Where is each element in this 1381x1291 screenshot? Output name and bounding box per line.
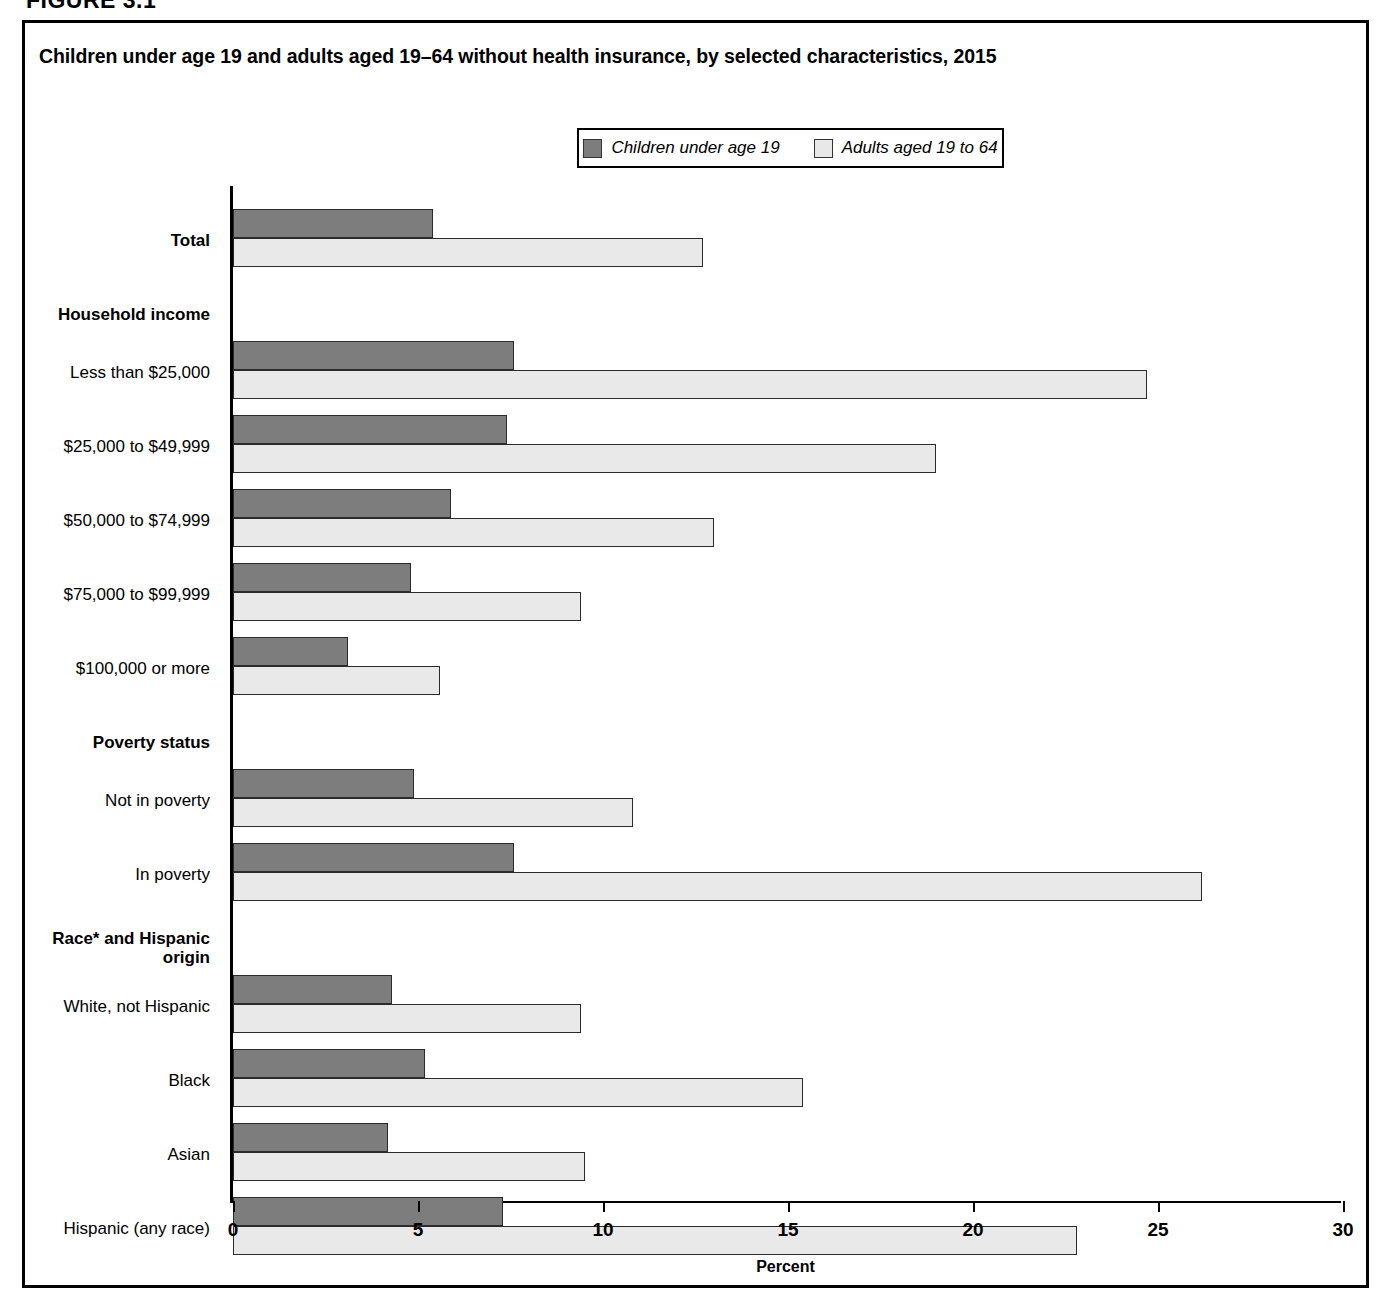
bar-children xyxy=(233,341,514,370)
row-label: Household income xyxy=(20,305,210,324)
x-tick-mark xyxy=(788,1201,790,1212)
bar-adults xyxy=(233,1078,803,1107)
bar-children xyxy=(233,769,414,798)
row-label: Hispanic (any race) xyxy=(20,1219,210,1238)
row-label: Not in poverty xyxy=(20,791,210,810)
bar-adults xyxy=(233,1226,1077,1255)
bar-children xyxy=(233,209,433,238)
row-label: Total xyxy=(20,231,210,250)
x-tick-mark xyxy=(603,1201,605,1212)
x-tick-label: 5 xyxy=(413,1219,424,1241)
bar-children xyxy=(233,637,348,666)
x-tick-label: 25 xyxy=(1147,1219,1168,1241)
bar-children xyxy=(233,843,514,872)
x-tick-label: 15 xyxy=(777,1219,798,1241)
bar-adults xyxy=(233,666,440,695)
bar-children xyxy=(233,1049,425,1078)
x-tick-mark xyxy=(1343,1201,1345,1212)
bar-children xyxy=(233,563,411,592)
bar-children xyxy=(233,1197,503,1226)
x-tick-label: 0 xyxy=(228,1219,239,1241)
bar-adults xyxy=(233,872,1202,901)
row-label: Asian xyxy=(20,1145,210,1164)
x-tick-label: 10 xyxy=(592,1219,613,1241)
row-label: $25,000 to $49,999 xyxy=(20,437,210,456)
row-label: Poverty status xyxy=(20,733,210,752)
row-label: Race* and Hispanic origin xyxy=(20,929,210,967)
row-label: In poverty xyxy=(20,865,210,884)
bar-adults xyxy=(233,798,633,827)
bar-adults xyxy=(233,592,581,621)
row-label: White, not Hispanic xyxy=(20,997,210,1016)
x-tick-mark xyxy=(973,1201,975,1212)
row-label: $100,000 or more xyxy=(20,659,210,678)
bar-children xyxy=(233,415,507,444)
figure-number-label: FIGURE 3.1 xyxy=(26,0,156,13)
figure-panel: Children under age 19 and adults aged 19… xyxy=(22,20,1369,1288)
bar-adults xyxy=(233,370,1147,399)
x-tick-mark xyxy=(233,1201,235,1212)
figure-page: FIGURE 3.1 Children under age 19 and adu… xyxy=(0,0,1381,1291)
x-axis-title: Percent xyxy=(230,1258,1341,1276)
bar-children xyxy=(233,489,451,518)
x-tick-mark xyxy=(1158,1201,1160,1212)
bar-adults xyxy=(233,238,703,267)
bar-adults xyxy=(233,518,714,547)
bar-adults xyxy=(233,444,936,473)
row-label: $75,000 to $99,999 xyxy=(20,585,210,604)
bar-adults xyxy=(233,1152,585,1181)
plot-area: TotalHousehold incomeLess than $25,000$2… xyxy=(25,23,1366,1285)
x-tick-label: 30 xyxy=(1332,1219,1353,1241)
row-label: $50,000 to $74,999 xyxy=(20,511,210,530)
row-label: Black xyxy=(20,1071,210,1090)
x-tick-label: 20 xyxy=(962,1219,983,1241)
bar-adults xyxy=(233,1004,581,1033)
row-label: Less than $25,000 xyxy=(20,363,210,382)
x-tick-mark xyxy=(418,1201,420,1212)
bar-children xyxy=(233,1123,388,1152)
bar-children xyxy=(233,975,392,1004)
